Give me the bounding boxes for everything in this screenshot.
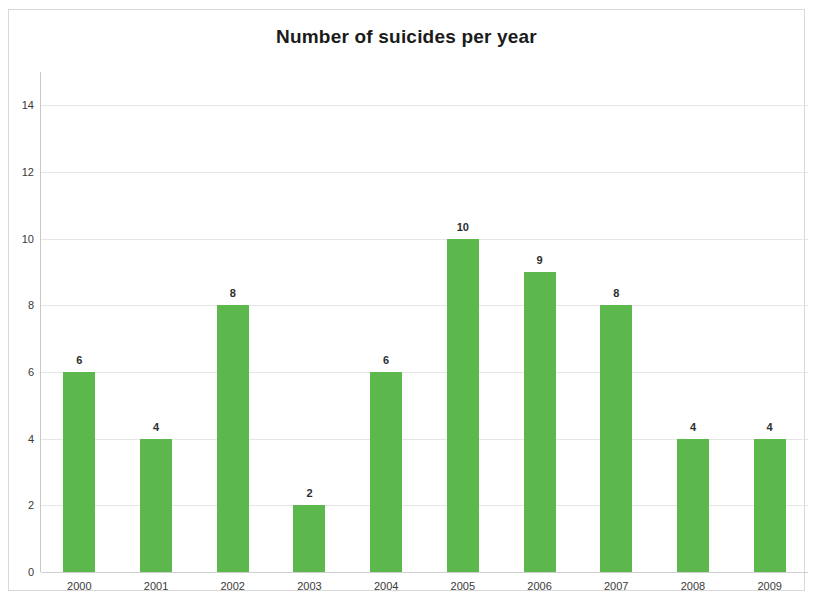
x-axis-tick-labels: 2000200120022003200420052006200720082009 [41, 0, 808, 597]
x-axis-tick-label: 2003 [279, 580, 339, 592]
x-axis-tick-label: 2000 [49, 580, 109, 592]
x-axis-tick-label: 2001 [126, 580, 186, 592]
bar-chart-figure: Number of suicides per year 64826109844 … [0, 0, 813, 597]
y-axis-tick-label: 0 [4, 566, 34, 578]
y-axis-tick-label: 8 [4, 299, 34, 311]
y-axis-tick-labels: 02468101214 [0, 72, 34, 572]
y-axis-tick-label: 6 [4, 366, 34, 378]
x-axis-tick-label: 2004 [356, 580, 416, 592]
x-axis-tick-label: 2007 [586, 580, 646, 592]
y-axis-tick-label: 10 [4, 233, 34, 245]
x-axis-tick-label: 2002 [203, 580, 263, 592]
y-axis-tick-label: 4 [4, 433, 34, 445]
x-axis-tick-label: 2005 [433, 580, 493, 592]
y-axis-tick-label: 12 [4, 166, 34, 178]
x-axis-tick-label: 2009 [740, 580, 800, 592]
y-axis-tick-label: 2 [4, 499, 34, 511]
y-axis-tick-label: 14 [4, 99, 34, 111]
x-axis-tick-label: 2006 [510, 580, 570, 592]
x-axis-tick-label: 2008 [663, 580, 723, 592]
